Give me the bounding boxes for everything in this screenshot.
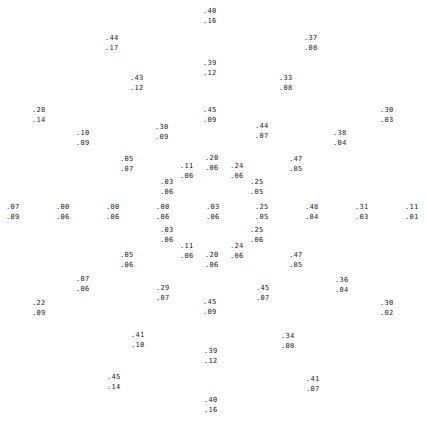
upper-value: .39	[204, 346, 218, 356]
lower-value: .06	[160, 235, 174, 245]
value-pair: .36.04	[335, 275, 349, 295]
upper-value: .00	[56, 202, 70, 212]
value-pair: .25.06	[250, 225, 264, 245]
upper-value: .05	[120, 154, 134, 164]
upper-value: .43	[130, 73, 144, 83]
upper-value: .44	[105, 33, 119, 43]
value-pair: .22.09	[32, 298, 46, 318]
lower-value: .02	[380, 308, 394, 318]
lower-value: .09	[203, 115, 217, 125]
upper-value: .36	[335, 275, 349, 285]
value-pair: .39.12	[203, 58, 217, 78]
lower-value: .05	[289, 164, 303, 174]
value-pair: .34.08	[281, 331, 295, 351]
value-pair: .20.06	[205, 250, 219, 270]
value-pair: .31.03	[355, 202, 369, 222]
lower-value: .06	[76, 284, 90, 294]
upper-value: .24	[230, 241, 244, 251]
upper-value: .41	[131, 330, 145, 340]
value-pair: .47.05	[289, 250, 303, 270]
upper-value: .03	[206, 202, 220, 212]
value-pair: .48.04	[305, 202, 319, 222]
value-pair: .45.09	[203, 105, 217, 125]
upper-value: .22	[32, 298, 46, 308]
lower-value: .08	[279, 83, 293, 93]
value-pair: .44.07	[255, 121, 269, 141]
lower-value: .05	[289, 260, 303, 270]
upper-value: .29	[156, 283, 170, 293]
upper-value: .11	[180, 161, 194, 171]
upper-value: .24	[230, 161, 244, 171]
lower-value: .09	[32, 308, 46, 318]
value-pair: .03.06	[206, 202, 220, 222]
lower-value: .05	[250, 187, 264, 197]
upper-value: .03	[160, 225, 174, 235]
value-pair: .25.05	[255, 202, 269, 222]
value-pair: .40.16	[203, 6, 217, 26]
lower-value: .04	[333, 138, 347, 148]
upper-value: .40	[204, 395, 218, 405]
lower-value: .16	[204, 405, 218, 415]
value-pair: .00.06	[156, 202, 170, 222]
upper-value: .48	[305, 202, 319, 212]
upper-value: .00	[106, 202, 120, 212]
lower-value: .01	[405, 212, 419, 222]
upper-value: .20	[205, 153, 219, 163]
lower-value: .07	[255, 131, 269, 141]
value-pair: .20.06	[205, 153, 219, 173]
lower-value: .06	[230, 251, 244, 261]
lower-value: .06	[250, 235, 264, 245]
lower-value: .06	[205, 260, 219, 270]
lower-value: .06	[106, 212, 120, 222]
upper-value: .37	[304, 33, 318, 43]
value-pair: .30.02	[380, 298, 394, 318]
upper-value: .47	[289, 250, 303, 260]
upper-value: .38	[333, 128, 347, 138]
lower-value: .03	[355, 212, 369, 222]
upper-value: .45	[203, 297, 217, 307]
lower-value: .06	[205, 163, 219, 173]
lower-value: .10	[131, 340, 145, 350]
value-pair: .47.05	[289, 154, 303, 174]
upper-value: .30	[380, 298, 394, 308]
upper-value: .45	[203, 105, 217, 115]
upper-value: .25	[250, 177, 264, 187]
upper-value: .40	[203, 6, 217, 16]
upper-value: .11	[405, 202, 419, 212]
value-pair: .00.06	[56, 202, 70, 222]
value-pair: .30.09	[155, 122, 169, 142]
upper-value: .44	[255, 121, 269, 131]
value-pair: .03.06	[160, 177, 174, 197]
upper-value: .45	[107, 372, 121, 382]
lower-value: .12	[204, 356, 218, 366]
value-pair: .30.03	[380, 105, 394, 125]
lower-value: .12	[203, 68, 217, 78]
lower-value: .07	[256, 293, 270, 303]
lower-value: .09	[155, 132, 169, 142]
upper-value: .07	[6, 202, 20, 212]
value-pair: .03.06	[160, 225, 174, 245]
value-pair: .37.08	[304, 33, 318, 53]
upper-value: .41	[306, 374, 320, 384]
lower-value: .06	[56, 212, 70, 222]
value-pair: .45.07	[256, 283, 270, 303]
upper-value: .10	[76, 128, 90, 138]
lower-value: .14	[107, 382, 121, 392]
value-pair: .40.16	[204, 395, 218, 415]
value-pair: .10.09	[76, 128, 90, 148]
value-pair: .24.06	[230, 241, 244, 261]
value-pair: .44.17	[105, 33, 119, 53]
lower-value: .09	[6, 212, 20, 222]
value-pair: .28.14	[32, 105, 46, 125]
value-pair: .07.06	[76, 274, 90, 294]
value-pair: .45.14	[107, 372, 121, 392]
lower-value: .14	[32, 115, 46, 125]
value-pair: .41.10	[131, 330, 145, 350]
upper-value: .34	[281, 331, 295, 341]
upper-value: .30	[380, 105, 394, 115]
lower-value: .08	[281, 341, 295, 351]
upper-value: .28	[32, 105, 46, 115]
lower-value: .07	[120, 164, 134, 174]
upper-value: .25	[255, 202, 269, 212]
lower-value: .04	[305, 212, 319, 222]
